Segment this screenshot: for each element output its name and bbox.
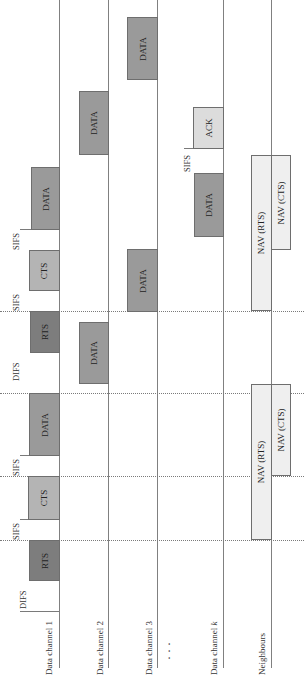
channel-k-label: Data channel k [209, 622, 219, 675]
sifs-label: SIFS [182, 155, 192, 172]
sifs-label: SIFS [11, 523, 21, 540]
data-frame-chk: DATA [194, 173, 224, 237]
data-frame-ch3-1: DATA [127, 249, 158, 312]
rts-frame-ch1-cycle2: RTS [30, 311, 60, 353]
cts-frame-ch1-cycle2: CTS [29, 250, 60, 291]
difs-start-tick [20, 611, 59, 612]
rts-frame-ch1-cycle1: RTS [29, 540, 60, 581]
nav-cts-cycle2: NAV (CTS) [271, 155, 291, 250]
data-frame-ch1-cycle2: DATA [31, 167, 60, 230]
channel-k-baseline [223, 0, 224, 668]
channel-ellipsis: · · · [162, 642, 177, 660]
difs-label: DIFS [11, 363, 21, 381]
sifs-label: SIFS [11, 294, 21, 311]
cts-frame-ch1-cycle1: CTS [28, 476, 60, 520]
data-frame-ch2-1: DATA [79, 322, 109, 384]
sifs-label: SIFS [11, 459, 21, 476]
channel-3-label: Data channel 3 [144, 621, 154, 675]
neighbours-baseline [271, 0, 272, 668]
channel-1-label: Data channel 1 [44, 621, 54, 675]
sifs-label: SIFS [11, 233, 21, 250]
ack-frame-chk: ACK [193, 107, 224, 149]
rts-cts-multichannel-timing-diagram: DIFS RTS SIFS CTS SIFS DATA DIFS RTS SIF… [0, 0, 304, 678]
nav-rts-cycle2: NAV (RTS) [251, 155, 272, 311]
data-frame-ch1-cycle1: DATA [29, 393, 60, 456]
channel-2-label: Data channel 2 [95, 621, 105, 675]
difs-label: DIFS [18, 591, 28, 609]
neighbours-label: Neighbours [257, 633, 267, 675]
nav-cts-cycle1: NAV (CTS) [271, 384, 291, 476]
data-frame-ch3-2: DATA [127, 17, 158, 80]
nav-rts-cycle1: NAV (RTS) [251, 384, 272, 540]
data-frame-ch2-2: DATA [79, 91, 109, 155]
channel-3-baseline [157, 0, 158, 668]
